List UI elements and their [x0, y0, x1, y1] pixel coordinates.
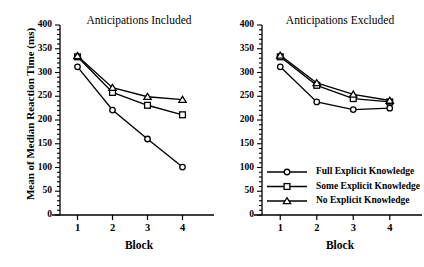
series-line-right — [280, 57, 390, 102]
y-tick-label-right: 0 — [224, 209, 254, 219]
x-tick-label-right: 2 — [307, 222, 327, 233]
legend-triangle-marker — [283, 198, 290, 204]
legend-label-1: Some Explicit Knowledge — [316, 181, 420, 191]
data-point-circle — [75, 64, 81, 70]
y-tick-label-left: 50 — [22, 185, 52, 195]
series-line-right — [280, 55, 390, 100]
data-point-triangle — [144, 93, 151, 99]
x-tick-label-right: 1 — [270, 222, 290, 233]
y-tick-label-left: 150 — [22, 138, 52, 148]
data-point-triangle — [386, 97, 393, 103]
y-tick-label-left: 200 — [22, 114, 52, 124]
data-point-square — [180, 112, 186, 118]
legend-label-0: Full Explicit Knowledge — [316, 166, 414, 176]
y-tick-label-right: 150 — [224, 138, 254, 148]
y-tick-label-left: 250 — [22, 90, 52, 100]
data-point-circle — [314, 99, 320, 105]
y-tick-label-left: 400 — [22, 19, 52, 29]
series-line-left — [78, 67, 183, 167]
data-point-square — [145, 102, 151, 108]
x-tick-label-left: 3 — [138, 222, 158, 233]
y-tick-label-right: 350 — [224, 43, 254, 53]
y-tick-label-right: 200 — [224, 114, 254, 124]
x-tick-label-left: 2 — [103, 222, 123, 233]
data-point-triangle — [277, 52, 284, 58]
y-tick-label-right: 250 — [224, 90, 254, 100]
x-tick-label-right: 4 — [380, 222, 400, 233]
data-point-triangle — [350, 91, 357, 97]
y-tick-label-right: 400 — [224, 19, 254, 29]
x-tick-label-right: 3 — [343, 222, 363, 233]
series-line-left — [78, 56, 183, 100]
legend-label-2: No Explicit Knowledge — [316, 195, 409, 205]
x-tick-label-left: 4 — [173, 222, 193, 233]
y-tick-label-left: 0 — [22, 209, 52, 219]
x-tick-label-left: 1 — [68, 222, 88, 233]
data-point-circle — [145, 136, 151, 142]
data-point-circle — [351, 107, 357, 113]
y-tick-label-right: 300 — [224, 67, 254, 77]
figure-container: Mean of Median Reaction Time (ms) Antici… — [0, 0, 424, 267]
y-tick-label-left: 300 — [22, 67, 52, 77]
data-point-circle — [110, 107, 116, 113]
legend-circle-marker — [284, 169, 290, 175]
y-tick-label-right: 100 — [224, 162, 254, 172]
data-point-circle — [180, 164, 186, 170]
legend-square-marker — [284, 184, 290, 190]
data-point-triangle — [179, 96, 186, 102]
y-tick-label-left: 100 — [22, 162, 52, 172]
data-point-circle — [278, 64, 284, 70]
data-point-circle — [387, 105, 393, 111]
y-tick-label-right: 50 — [224, 185, 254, 195]
y-tick-label-left: 350 — [22, 43, 52, 53]
